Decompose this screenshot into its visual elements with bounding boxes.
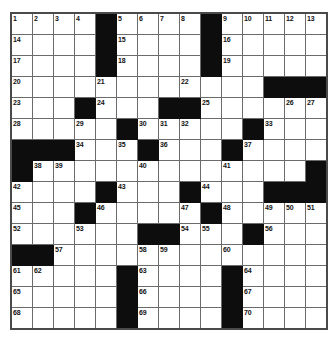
grid-cell[interactable] [138,77,159,98]
grid-cell[interactable] [222,77,243,98]
grid-cell-numbered[interactable]: 46 [96,203,117,224]
grid-cell[interactable] [180,56,201,77]
grid-cell[interactable] [75,245,96,266]
grid-cell-numbered[interactable]: 69 [138,308,159,330]
grid-cell[interactable] [243,56,264,77]
grid-cell[interactable] [243,161,264,182]
grid-cell-numbered[interactable]: 63 [138,266,159,287]
grid-cell[interactable] [75,287,96,308]
grid-cell[interactable] [96,224,117,245]
grid-cell[interactable] [180,35,201,56]
grid-cell-numbered[interactable]: 50 [285,203,306,224]
grid-cell-numbered[interactable]: 47 [180,203,201,224]
grid-cell[interactable] [159,35,180,56]
grid-cell[interactable] [264,308,285,330]
grid-cell-numbered[interactable]: 33 [264,119,285,140]
grid-cell[interactable] [306,224,328,245]
grid-cell-numbered[interactable]: 49 [264,203,285,224]
grid-cell[interactable] [285,224,306,245]
grid-cell[interactable] [75,56,96,77]
grid-cell-numbered[interactable]: 4 [75,13,96,35]
grid-cell[interactable] [285,56,306,77]
grid-cell[interactable] [201,140,222,161]
grid-cell[interactable] [222,224,243,245]
grid-cell-numbered[interactable]: 10 [243,13,264,35]
grid-cell[interactable] [180,140,201,161]
grid-cell-numbered[interactable]: 6 [138,13,159,35]
grid-cell[interactable] [285,266,306,287]
grid-cell-numbered[interactable]: 17 [11,56,33,77]
grid-cell[interactable] [264,287,285,308]
grid-cell-numbered[interactable]: 5 [117,13,138,35]
grid-cell-numbered[interactable]: 37 [243,140,264,161]
grid-cell-numbered[interactable]: 1 [11,13,33,35]
grid-cell[interactable] [180,308,201,330]
grid-cell[interactable] [138,35,159,56]
grid-cell[interactable] [285,287,306,308]
grid-cell-numbered[interactable]: 2 [33,13,54,35]
grid-cell[interactable] [138,98,159,119]
grid-cell[interactable] [264,98,285,119]
grid-cell[interactable] [33,77,54,98]
grid-cell[interactable] [306,245,328,266]
grid-cell[interactable] [159,308,180,330]
grid-cell-numbered[interactable]: 24 [96,98,117,119]
grid-cell[interactable] [96,287,117,308]
grid-cell[interactable] [306,119,328,140]
grid-cell-numbered[interactable]: 26 [285,98,306,119]
grid-cell[interactable] [285,35,306,56]
grid-cell[interactable] [75,161,96,182]
grid-cell[interactable] [222,182,243,203]
grid-cell[interactable] [117,245,138,266]
grid-cell[interactable] [54,56,75,77]
grid-cell[interactable] [285,308,306,330]
grid-cell[interactable] [159,77,180,98]
grid-cell-numbered[interactable]: 32 [180,119,201,140]
grid-cell[interactable] [138,203,159,224]
grid-cell-numbered[interactable]: 52 [11,224,33,245]
grid-cell[interactable] [96,245,117,266]
grid-cell-numbered[interactable]: 25 [201,98,222,119]
grid-cell[interactable] [285,140,306,161]
grid-cell-numbered[interactable]: 59 [159,245,180,266]
grid-cell[interactable] [117,161,138,182]
grid-cell-numbered[interactable]: 56 [264,224,285,245]
grid-cell[interactable] [180,287,201,308]
grid-cell-numbered[interactable]: 18 [117,56,138,77]
grid-cell[interactable] [33,119,54,140]
grid-cell-numbered[interactable]: 13 [306,13,328,35]
grid-cell[interactable] [243,245,264,266]
grid-cell-numbered[interactable]: 68 [11,308,33,330]
grid-cell-numbered[interactable]: 21 [96,77,117,98]
grid-cell-numbered[interactable]: 43 [117,182,138,203]
grid-cell-numbered[interactable]: 30 [138,119,159,140]
grid-cell[interactable] [180,266,201,287]
grid-cell[interactable] [159,266,180,287]
grid-cell-numbered[interactable]: 51 [306,203,328,224]
grid-cell-numbered[interactable]: 61 [11,266,33,287]
grid-cell-numbered[interactable]: 42 [11,182,33,203]
grid-cell[interactable] [222,119,243,140]
grid-cell-numbered[interactable]: 45 [11,203,33,224]
grid-cell-numbered[interactable]: 29 [75,119,96,140]
grid-cell[interactable] [201,287,222,308]
grid-cell-numbered[interactable]: 28 [11,119,33,140]
grid-cell-numbered[interactable]: 19 [222,56,243,77]
grid-cell[interactable] [201,77,222,98]
grid-cell[interactable] [138,56,159,77]
grid-cell-numbered[interactable]: 67 [243,287,264,308]
grid-cell[interactable] [75,182,96,203]
grid-cell[interactable] [54,98,75,119]
grid-cell-numbered[interactable]: 3 [54,13,75,35]
grid-cell[interactable] [264,245,285,266]
grid-cell[interactable] [54,35,75,56]
grid-cell-numbered[interactable]: 60 [222,245,243,266]
grid-cell[interactable] [306,56,328,77]
grid-cell[interactable] [54,203,75,224]
grid-cell-numbered[interactable]: 44 [201,182,222,203]
grid-cell[interactable] [264,266,285,287]
grid-cell[interactable] [201,161,222,182]
grid-cell[interactable] [96,308,117,330]
grid-cell-numbered[interactable]: 55 [201,224,222,245]
grid-cell[interactable] [96,119,117,140]
